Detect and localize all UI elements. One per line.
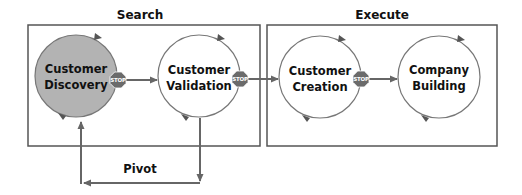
stage-label-line2: Building xyxy=(394,78,484,94)
stage-label-line2: Creation xyxy=(275,79,365,95)
cycle-arrow-icon xyxy=(338,35,346,42)
cycle-arrow-icon xyxy=(94,33,102,40)
customer-validation-label: Customer Validation xyxy=(154,62,244,94)
company-building-label: Company Building xyxy=(394,62,484,94)
stage-label-line2: Validation xyxy=(154,78,244,94)
cycle-arrow-icon xyxy=(217,34,225,41)
stage-label-line1: Customer xyxy=(31,61,121,77)
stop-sign-text: STOP xyxy=(353,76,369,82)
search-section-title: Search xyxy=(117,8,163,22)
diagram-canvas xyxy=(0,0,522,195)
stage-label-line1: Customer xyxy=(154,62,244,78)
stage-label-line1: Customer xyxy=(275,63,365,79)
stage-label-line1: Company xyxy=(394,62,484,78)
customer-creation-label: Customer Creation xyxy=(275,63,365,95)
execute-section-title: Execute xyxy=(355,8,409,22)
customer-development-diagram: Search Execute Customer Discovery Custom… xyxy=(0,0,522,195)
cycle-arrow-icon xyxy=(457,35,465,42)
pivot-label: Pivot xyxy=(123,162,156,176)
customer-discovery-label: Customer Discovery xyxy=(31,61,121,93)
stop-sign-text: STOP xyxy=(110,77,126,83)
stop-sign-text: STOP xyxy=(232,76,248,82)
stage-label-line2: Discovery xyxy=(31,77,121,93)
